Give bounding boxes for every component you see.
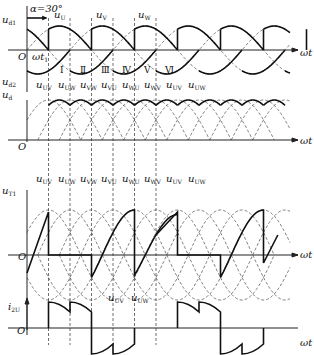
y-label-ud: ud xyxy=(2,90,12,103)
line-label-ud-2: uVW xyxy=(80,80,97,93)
line-label-ut1-1: uUW xyxy=(58,174,76,187)
interval-5: Ⅴ xyxy=(144,66,151,75)
interval-3: Ⅲ xyxy=(101,66,110,75)
line-label-ud-3: uVU xyxy=(101,80,117,93)
phase-label-w: uW xyxy=(138,10,151,23)
bottom-label-uw: uUW xyxy=(131,293,149,306)
line-label-ud-7: uUW xyxy=(188,80,206,93)
x-axis-label-1: ωt xyxy=(300,48,312,58)
interval-2: Ⅱ xyxy=(80,66,86,75)
line-label-ut1-0: uUV xyxy=(36,174,52,187)
t1-label: ωt1 xyxy=(32,52,48,65)
line-label-ud-1: uUW xyxy=(58,80,76,93)
interval-4: Ⅳ xyxy=(122,66,131,75)
x-axis-label-4: ωt xyxy=(300,338,312,348)
y-label-i2u: i2U xyxy=(8,302,20,315)
phase-label-u: uU xyxy=(54,10,66,23)
interval-6: Ⅵ xyxy=(165,66,174,75)
origin-label-2: O xyxy=(18,142,26,152)
origin-label-1: O xyxy=(18,52,26,62)
origin-label-4: O xyxy=(17,326,25,336)
y-label-ud1: ud1 xyxy=(2,15,16,28)
y-label-ut1: uT1 xyxy=(2,186,16,199)
line-label-ut1-2: uVW xyxy=(80,174,97,187)
phase-label-v: uV xyxy=(96,10,107,23)
x-axis-label-2: ωt xyxy=(300,136,312,146)
origin-label-3: O xyxy=(18,252,26,262)
line-label-ut1-3: uVU xyxy=(101,174,117,187)
line-label-ut1-7: uUW xyxy=(188,174,206,187)
x-axis-label-3: ωt xyxy=(300,250,312,260)
line-label-ud-6: uUV xyxy=(166,80,182,93)
bottom-label-uv: uUV xyxy=(108,293,124,306)
line-label-ud-0: uUV xyxy=(36,80,52,93)
reference-dashed-curves xyxy=(27,26,290,300)
line-label-ut1-6: uUV xyxy=(166,174,182,187)
interval-1: Ⅰ xyxy=(60,66,64,75)
line-label-ut1-5: uWV xyxy=(144,174,161,187)
line-label-ud-5: uWV xyxy=(144,80,161,93)
line-label-ud-4: uWU xyxy=(122,80,140,93)
line-label-ut1-4: uWU xyxy=(122,174,140,187)
axes xyxy=(8,6,298,335)
